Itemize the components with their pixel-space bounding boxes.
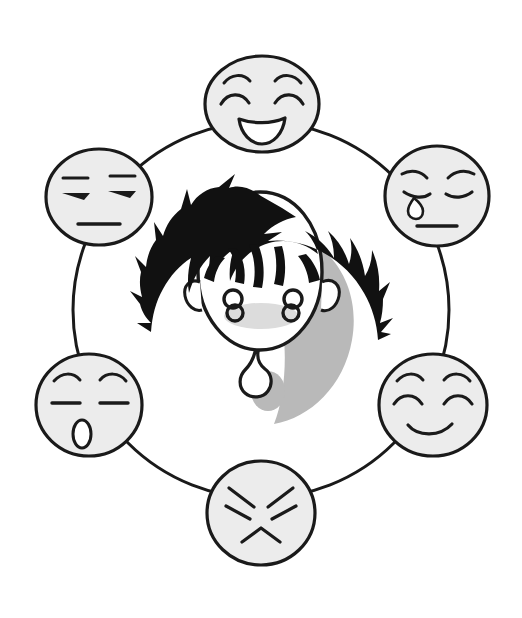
- face-neutral: [46, 149, 152, 245]
- face-content: [379, 354, 487, 456]
- face-angry-outline: [207, 461, 315, 565]
- boy-ear-left: [185, 281, 202, 310]
- face-surprised-mouth: [73, 420, 91, 448]
- face-surprised: [36, 354, 142, 456]
- face-happy: [205, 56, 319, 152]
- boy-head: [130, 174, 393, 424]
- illustration-stage: [0, 0, 522, 618]
- boy-drool-drop: [240, 352, 271, 397]
- face-angry: [207, 461, 315, 565]
- face-sad: [385, 146, 489, 246]
- emotion-wheel-illustration: [0, 0, 522, 618]
- face-sad-outline: [385, 146, 489, 246]
- face-neutral-outline: [46, 149, 152, 245]
